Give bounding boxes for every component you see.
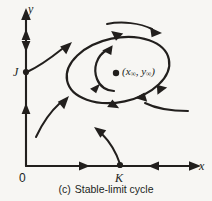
trajectory-from-j <box>27 42 72 72</box>
x-axis-label: x <box>199 160 204 172</box>
trajectory-top-arrowhead <box>150 28 162 38</box>
trajectory-lower-left <box>36 96 69 137</box>
paren-close: ) <box>151 65 155 77</box>
equilibrium-point-marker <box>113 70 119 76</box>
y-axis-flow-arrow-up-top <box>22 29 31 40</box>
point-marker-k <box>117 162 123 168</box>
x-axis-flow-arrow-right-of-origin <box>79 162 90 171</box>
point-marker-j <box>23 69 29 75</box>
x-axis <box>26 161 201 171</box>
figure-caption: (c)Stable-limit cycle <box>0 183 212 195</box>
phase-plane-figure: y x J K 0 (x∞, y∞) (c)Stable-limit cycle <box>0 0 212 201</box>
trajectory-lower-left-arrowhead <box>58 96 69 109</box>
y-axis-flow-arrow-down-above-j <box>22 41 31 52</box>
limit-cycle-orbit <box>60 28 175 112</box>
trajectory-right-path <box>145 103 188 111</box>
trajectory-from-j-arrowhead <box>60 42 72 54</box>
trajectory-right-inward <box>135 93 188 111</box>
trajectory-from-k <box>94 127 120 164</box>
trajectory-lower-left-path <box>36 103 60 137</box>
y-axis-label: y <box>28 3 33 15</box>
inner-spiral <box>90 42 116 94</box>
x-axis-flow-arrow-left-toward-k <box>148 162 159 171</box>
inner-spiral-arrowhead-upper <box>102 42 116 55</box>
phase-plane-canvas <box>0 0 212 201</box>
trajectory-top-path <box>107 23 152 29</box>
trajectory-from-j-path <box>27 49 62 72</box>
equilibrium-point-label: (x∞, y∞) <box>122 66 155 77</box>
trajectory-from-k-path <box>102 134 120 164</box>
y-axis-flow-arrow-up-below-j <box>22 103 31 114</box>
y-axis-point-label-j: J <box>13 66 18 78</box>
caption-tag: (c) <box>58 183 70 195</box>
limit-cycle <box>60 28 175 112</box>
caption-text: Stable-limit cycle <box>75 183 154 195</box>
